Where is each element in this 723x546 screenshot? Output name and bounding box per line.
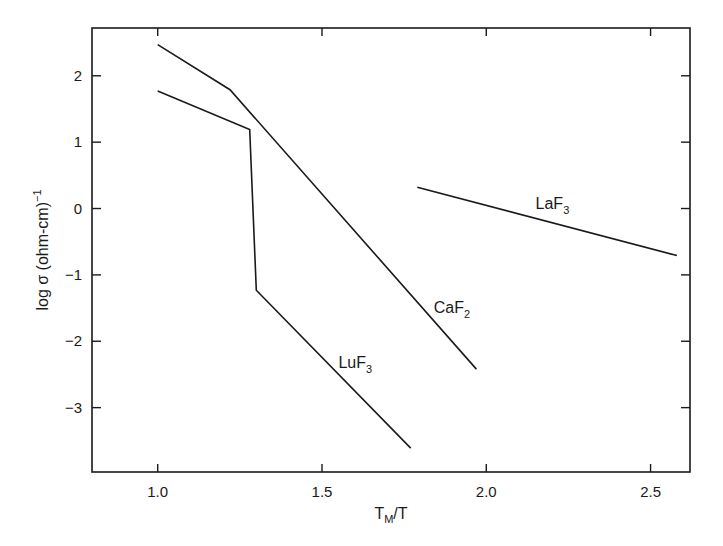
y-tick-label: −1 — [65, 266, 82, 283]
x-tick-label: 2.5 — [640, 483, 661, 500]
label-caf2: CaF2 — [434, 299, 470, 320]
x-axis-ticks: 1.01.52.02.5 — [147, 28, 661, 500]
curve-caf2 — [158, 45, 477, 370]
x-tick-label: 2.0 — [476, 483, 497, 500]
y-axis-ticks: 210−1−2−3 — [65, 67, 690, 416]
y-tick-label: 2 — [74, 67, 82, 84]
x-tick-label: 1.0 — [147, 483, 168, 500]
y-axis-label: log σ (ohm-cm)−1 — [31, 189, 51, 310]
x-axis-label: TM/T — [374, 505, 407, 525]
x-tick-label: 1.5 — [312, 483, 333, 500]
y-tick-label: 0 — [74, 200, 82, 217]
series-curves — [158, 45, 677, 449]
label-luf3: LuF3 — [338, 354, 372, 375]
plot-frame — [92, 28, 690, 472]
y-tick-label: −2 — [65, 332, 82, 349]
y-tick-label: 1 — [74, 133, 82, 150]
label-laf3: LaF3 — [536, 195, 570, 216]
series-labels: CaF2LuF3LaF3 — [338, 195, 569, 375]
conductivity-chart: 1.01.52.02.5 210−1−2−3 CaF2LuF3LaF3 TM/T… — [0, 0, 723, 546]
y-tick-label: −3 — [65, 399, 82, 416]
curve-luf3 — [158, 91, 411, 448]
